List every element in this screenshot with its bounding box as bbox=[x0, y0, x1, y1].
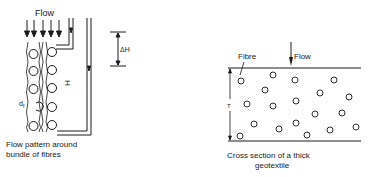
left-figure: Flow bbox=[6, 8, 130, 159]
left-flow-label: Flow bbox=[35, 8, 55, 18]
fibre-cross-sections bbox=[237, 72, 359, 139]
manometer-tube bbox=[56, 18, 91, 135]
right-caption-line1: Cross section of a thick bbox=[227, 151, 311, 160]
right-figure: Fibre Flow T bbox=[227, 42, 361, 170]
fibre-column-right bbox=[48, 48, 57, 130]
fibre-diameter-label: df bbox=[19, 100, 25, 109]
height-label: H bbox=[63, 80, 72, 86]
right-caption-line2: geotextile bbox=[255, 161, 290, 170]
right-flow-arrowhead bbox=[289, 57, 293, 66]
fibre-label: Fibre bbox=[238, 52, 257, 61]
head-difference-label: ΔH bbox=[120, 46, 130, 53]
left-caption-line1: Flow pattern around bbox=[6, 140, 77, 149]
diagram-canvas: Flow bbox=[0, 0, 371, 177]
right-flow-label: Flow bbox=[294, 52, 311, 61]
flow-arrows bbox=[25, 20, 62, 37]
left-caption-line2: bundle of fibres bbox=[6, 150, 61, 159]
thickness-label: T bbox=[227, 103, 231, 109]
